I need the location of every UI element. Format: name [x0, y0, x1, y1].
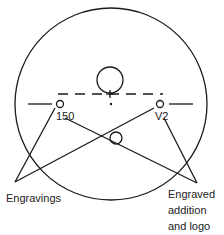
right-marker-circle	[157, 101, 164, 108]
engraved-leader-right	[164, 118, 197, 183]
bottom-circle	[110, 132, 122, 144]
label-addition: addition	[168, 204, 207, 216]
left-marker-circle	[57, 101, 64, 108]
label-engravings: Engravings	[6, 192, 62, 204]
engravings-leader-right	[15, 108, 154, 182]
label-engraved: Engraved	[168, 188, 215, 200]
center-dot	[110, 103, 112, 105]
top-circle	[97, 67, 123, 93]
engraved-leader-left	[65, 118, 197, 183]
label-and-logo: and logo	[168, 220, 210, 232]
label-150: 150	[56, 110, 74, 122]
lens-engraving-diagram: 150 V2 Engravings Engraved addition and …	[0, 0, 224, 235]
label-v2: V2	[155, 110, 168, 122]
